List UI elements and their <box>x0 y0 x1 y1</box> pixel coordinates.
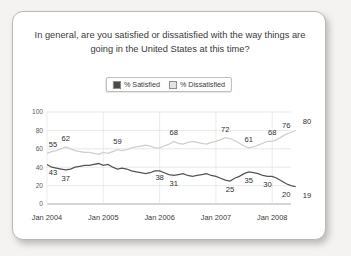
svg-text:20: 20 <box>36 182 44 189</box>
svg-text:19: 19 <box>303 191 311 200</box>
svg-text:31: 31 <box>169 179 177 188</box>
chart-title: In general, are you satisfied or dissati… <box>27 28 313 56</box>
svg-text:80: 80 <box>36 127 44 134</box>
svg-text:Jan 2007: Jan 2007 <box>201 213 231 222</box>
legend-swatch-icon <box>113 81 121 89</box>
screenshot-root: In general, are you satisfied or dissati… <box>0 0 351 256</box>
svg-text:Jan 2005: Jan 2005 <box>88 213 118 222</box>
svg-text:60: 60 <box>36 145 44 152</box>
data-labels-satisfied: 433738312535302019 <box>49 168 311 199</box>
svg-text:25: 25 <box>226 185 234 194</box>
vertical-gridlines <box>47 112 272 204</box>
svg-text:20: 20 <box>282 190 290 199</box>
chart-card: In general, are you satisfied or dissati… <box>12 11 326 240</box>
svg-text:37: 37 <box>62 174 70 183</box>
legend-swatch-icon <box>169 81 177 89</box>
svg-text:40: 40 <box>36 164 44 171</box>
svg-text:68: 68 <box>268 128 276 137</box>
svg-text:62: 62 <box>62 134 70 143</box>
x-axis-ticks: Jan 2004Jan 2005Jan 2006Jan 2007Jan 2008 <box>32 213 288 222</box>
legend-label-satisfied: % Satisfied <box>124 80 160 89</box>
svg-text:35: 35 <box>245 176 253 185</box>
legend-label-dissatisfied: % Dissatisfied <box>180 80 225 89</box>
svg-text:0: 0 <box>39 200 43 207</box>
svg-text:Jan 2008: Jan 2008 <box>257 213 287 222</box>
svg-text:80: 80 <box>303 117 311 126</box>
svg-text:100: 100 <box>32 108 43 115</box>
legend-item-satisfied[interactable]: % Satisfied <box>113 80 160 89</box>
y-axis-ticks: 020406080100 <box>32 108 43 207</box>
svg-text:30: 30 <box>263 180 271 189</box>
svg-text:72: 72 <box>221 125 229 134</box>
line-chart-svg: 020406080100 Jan 2004Jan 2005Jan 2006Jan… <box>23 106 317 231</box>
svg-text:Jan 2006: Jan 2006 <box>144 213 174 222</box>
svg-text:76: 76 <box>282 121 290 130</box>
data-labels-dissatisfied: 556259687261687680 <box>49 117 311 149</box>
svg-text:43: 43 <box>49 168 57 177</box>
chart-plot-area: 020406080100 Jan 2004Jan 2005Jan 2006Jan… <box>23 106 317 231</box>
svg-text:68: 68 <box>169 128 177 137</box>
svg-text:Jan 2004: Jan 2004 <box>32 213 62 222</box>
gridlines <box>47 112 291 204</box>
legend-item-dissatisfied[interactable]: % Dissatisfied <box>169 80 225 89</box>
svg-text:55: 55 <box>49 140 57 149</box>
svg-text:61: 61 <box>245 135 253 144</box>
svg-text:59: 59 <box>113 137 121 146</box>
svg-text:38: 38 <box>155 173 163 182</box>
chart-legend: % Satisfied % Dissatisfied <box>106 77 232 92</box>
